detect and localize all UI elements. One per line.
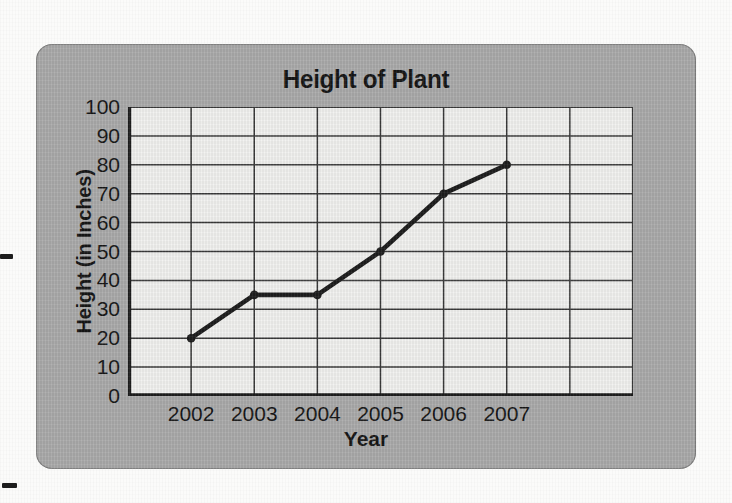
x-tick-label: 2004 (294, 402, 341, 426)
x-tick-label: 2002 (168, 402, 215, 426)
chart-panel: Height of Plant Height (in Inches) 01020… (36, 44, 696, 469)
y-tick-label: 70 (97, 182, 120, 206)
y-tick-label: 40 (97, 268, 120, 292)
y-tick-label: 60 (97, 211, 120, 235)
plot-area: 0102030405060708090100200220032004200520… (128, 107, 633, 396)
x-tick-label: 2007 (483, 402, 530, 426)
x-axis-title: Year (36, 427, 696, 451)
y-tick-label: 50 (97, 240, 120, 264)
y-tick-label: 20 (97, 326, 120, 350)
y-tick-label: 80 (97, 153, 120, 177)
x-tick-label: 2005 (357, 402, 404, 426)
x-tick-label: 2006 (420, 402, 467, 426)
y-tick-label: 90 (97, 124, 120, 148)
y-axis-title: Height (in Inches) (73, 142, 96, 362)
y-tick-label: 0 (108, 384, 120, 408)
left-edge-crop-mark (0, 254, 13, 259)
y-tick-label: 10 (97, 355, 120, 379)
y-tick-label: 100 (85, 95, 120, 119)
x-tick-label: 2003 (231, 402, 278, 426)
y-tick-label: 30 (97, 297, 120, 321)
chart-grid-and-series (128, 107, 633, 396)
chart-title: Height of Plant (59, 64, 673, 95)
bottom-edge-crop-mark (2, 483, 17, 488)
